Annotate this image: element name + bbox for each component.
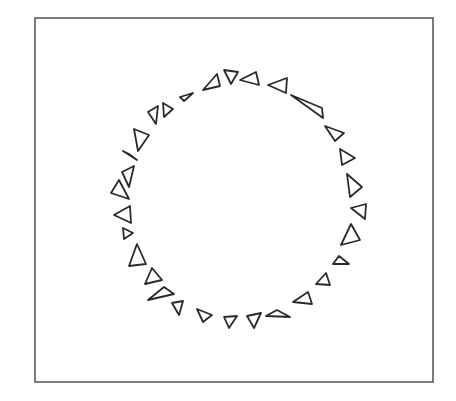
triangle-icon — [145, 268, 162, 284]
triangle-icon — [224, 316, 237, 328]
triangle-icon — [351, 204, 366, 219]
triangle-icon — [340, 149, 355, 165]
triangle-icon — [197, 309, 212, 322]
ring-of-triangles-figure — [0, 0, 456, 401]
triangle-icon — [114, 206, 131, 223]
triangle-icon — [266, 310, 290, 317]
triangle-icon — [122, 166, 134, 187]
triangle-icon — [129, 244, 146, 266]
triangle-icon — [268, 78, 287, 93]
triangle-icon — [148, 106, 158, 124]
triangle-icon — [240, 72, 259, 85]
triangle-icon — [291, 95, 323, 118]
triangle-icon — [163, 103, 173, 117]
triangle-icon — [123, 151, 137, 160]
triangle-icon — [293, 292, 312, 304]
triangle-icon — [224, 70, 238, 84]
triangle-icon — [123, 228, 133, 239]
triangle-icon — [134, 129, 149, 151]
figure-canvas — [0, 0, 456, 401]
triangle-icon — [333, 256, 349, 264]
triangle-icon — [316, 273, 330, 285]
triangle-icon — [325, 126, 344, 141]
triangle-icon — [341, 224, 360, 245]
triangle-icon — [172, 301, 183, 315]
triangle-ring — [111, 70, 366, 328]
triangle-icon — [148, 287, 174, 300]
triangle-icon — [203, 74, 220, 90]
square-frame — [35, 18, 433, 382]
triangle-icon — [347, 174, 362, 197]
triangle-icon — [180, 93, 193, 101]
triangle-icon — [247, 313, 261, 328]
